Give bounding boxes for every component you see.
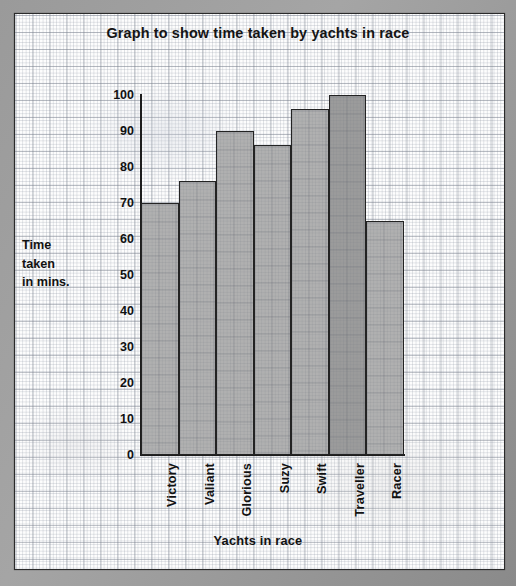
paper-texture — [15, 14, 504, 569]
graph-paper-sheet — [14, 13, 505, 570]
